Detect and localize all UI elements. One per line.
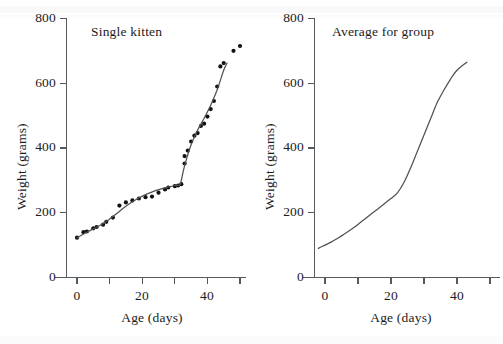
y-axis-title-left: Weight (grams) xyxy=(14,123,30,210)
data-point xyxy=(238,44,242,48)
data-point xyxy=(150,195,154,199)
panel-title-average-for-group: Average for group xyxy=(332,24,434,40)
data-point xyxy=(124,200,128,204)
x-tick-label-0-right: 0 xyxy=(310,288,340,304)
x-tick-label-40-left: 40 xyxy=(192,288,222,304)
x-ticks-right xyxy=(325,278,490,285)
x-axis-title-right: Age (days) xyxy=(356,310,446,326)
panel-average-for-group: Average for group 0 200 400 600 800 0 20… xyxy=(250,0,503,344)
x-ticks-left xyxy=(77,278,240,285)
kitten-growth-figure: Single kitten 0 200 400 600 800 0 20 40 … xyxy=(0,0,503,344)
scatter-points-single-kitten xyxy=(75,44,242,240)
panel-single-kitten: Single kitten 0 200 400 600 800 0 20 40 … xyxy=(0,0,250,344)
y-axis-title-right: Weight (grams) xyxy=(262,123,278,210)
y-tick-label-0-left: 0 xyxy=(18,269,56,285)
y-ticks-left xyxy=(60,19,67,278)
y-tick-label-800-left: 800 xyxy=(18,10,56,26)
panel-title-single-kitten: Single kitten xyxy=(91,24,162,40)
data-point xyxy=(183,154,187,158)
data-point xyxy=(222,61,226,65)
y-tick-label-600-left: 600 xyxy=(18,75,56,91)
y-tick-label-600-right: 600 xyxy=(266,75,304,91)
data-point xyxy=(156,191,160,195)
series-line-fitted-growth-curve xyxy=(77,63,227,238)
x-tick-label-20-right: 20 xyxy=(376,288,406,304)
y-tick-label-800-right: 800 xyxy=(266,10,304,26)
x-tick-label-20-left: 20 xyxy=(127,288,157,304)
x-axis-title-left: Age (days) xyxy=(107,310,197,326)
x-tick-label-0-left: 0 xyxy=(62,288,92,304)
x-tick-label-40-right: 40 xyxy=(442,288,472,304)
data-point xyxy=(218,64,222,68)
y-tick-label-0-right: 0 xyxy=(266,269,304,285)
data-point xyxy=(117,204,121,208)
series-line-average-weight xyxy=(318,62,467,248)
data-point xyxy=(231,49,235,53)
y-ticks-right xyxy=(308,19,315,278)
